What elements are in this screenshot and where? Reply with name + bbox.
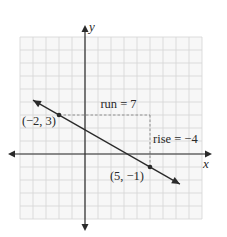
slope-graph: y x (−2, 3) (5, −1) run = 7 rise = −4 — [0, 0, 227, 237]
x-axis-arrow-left — [8, 151, 15, 158]
rise-annotation: rise = −4 — [153, 132, 198, 146]
run-annotation: run = 7 — [100, 97, 136, 111]
point-label-first: (−2, 3) — [22, 114, 56, 128]
x-axis-label: x — [202, 156, 209, 171]
y-axis-label: y — [87, 19, 95, 34]
point-label-second: (5, −1) — [110, 169, 144, 183]
data-point — [57, 113, 62, 118]
data-point — [148, 165, 153, 170]
y-axis-arrow-down — [82, 224, 89, 231]
y-axis-arrow-up — [82, 25, 89, 32]
